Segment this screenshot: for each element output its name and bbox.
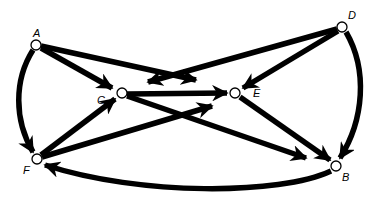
node-f: F	[23, 154, 42, 176]
node-d: D	[337, 9, 356, 32]
edge-d-to-c	[148, 29, 337, 82]
node-a: A	[31, 27, 41, 50]
edge-b-to-f	[45, 165, 331, 189]
node-c-circle	[117, 88, 127, 98]
node-d-circle	[337, 22, 347, 32]
node-a-circle	[31, 40, 41, 50]
node-f-circle	[32, 154, 42, 164]
node-b-circle	[331, 161, 341, 171]
edges	[19, 29, 361, 189]
node-d-label: D	[348, 9, 356, 21]
edge-c-to-e	[127, 93, 227, 94]
edge-a-to-f	[19, 50, 33, 152]
node-b: B	[331, 161, 349, 183]
node-b-label: B	[342, 171, 349, 183]
directed-graph-diagram: A D C E F B	[0, 0, 375, 198]
node-e-label: E	[253, 87, 261, 99]
node-c-label: C	[97, 94, 105, 106]
node-f-label: F	[23, 164, 31, 176]
node-e-circle	[230, 88, 240, 98]
node-a-label: A	[32, 27, 40, 39]
edge-d-to-b	[340, 32, 360, 158]
